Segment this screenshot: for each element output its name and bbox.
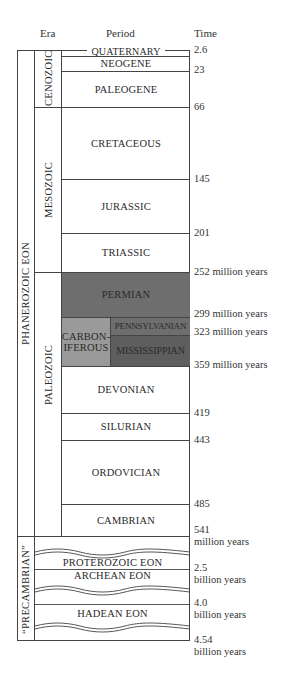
carboniferous-label-1: CARBON- [62, 331, 111, 342]
period-header: Period [106, 27, 135, 39]
period-jurassic: JURASSIC [62, 179, 190, 233]
time-66: 66 [194, 101, 205, 113]
period-ordovician: ORDOVICIAN [62, 440, 190, 504]
time-2-6: 2.6 [194, 44, 207, 56]
time-4-0: 4.0 [194, 597, 207, 609]
period-cretaceous: CRETACEOUS [62, 107, 190, 179]
time-541: 541 [194, 524, 210, 536]
time-541-unit: million years [194, 536, 249, 548]
eon-proterozoic: PROTEROZOIC EON [35, 557, 190, 569]
period-triassic: TRIASSIC [62, 233, 190, 272]
time-2-5-unit: billion years [194, 574, 246, 586]
time-419: 419 [194, 407, 210, 419]
eon-hadean: HADEAN EON [35, 607, 190, 621]
time-header: Time [194, 27, 217, 39]
quaternary-line [62, 49, 190, 50]
era-header: Era [40, 27, 55, 39]
time-23: 23 [194, 64, 205, 76]
time-485: 485 [194, 498, 210, 510]
time-359: 359 million years [194, 359, 268, 371]
time-4-54-unit: billion years [194, 646, 246, 658]
era-cenozoic: CENOZOIC [35, 50, 61, 107]
era-mesozoic: MESOZOIC [35, 108, 61, 272]
period-neogene: NEOGENE [62, 56, 190, 71]
precambrian-wavy-breaks [35, 537, 190, 640]
period-cambrian: CAMBRIAN [62, 504, 190, 537]
time-323: 323 million years [194, 326, 268, 338]
time-443: 443 [194, 434, 210, 446]
time-299: 299 million years [194, 308, 268, 320]
subperiod-mississippian: MISSISSIPPIAN [111, 335, 190, 366]
period-paleogene: PALEOGENE [62, 71, 190, 107]
carboniferous-label-2: IFEROUS [63, 342, 108, 353]
time-2-5: 2.5 [194, 562, 207, 574]
time-4-0-unit: billion years [194, 609, 246, 621]
period-carboniferous: CARBON- IFEROUS [62, 317, 111, 366]
era-paleozoic: PALEOZOIC [35, 273, 61, 537]
eon-precambrian: “PRECAMBRIAN” [17, 537, 34, 641]
eon-phanerozoic: PHANEROZOIC EON [17, 50, 34, 537]
time-252: 252 million years [194, 266, 268, 278]
eon-archean: ARCHEAN EON [35, 570, 190, 582]
period-devonian: DEVONIAN [62, 366, 190, 413]
period-silurian: SILURIAN [62, 413, 190, 440]
subperiod-pennsylvanian: PENNSYLVANIAN [111, 317, 190, 335]
time-145: 145 [194, 173, 210, 185]
time-4-54: 4.54 [194, 634, 212, 646]
period-permian: PERMIAN [62, 272, 190, 317]
time-201: 201 [194, 227, 210, 239]
